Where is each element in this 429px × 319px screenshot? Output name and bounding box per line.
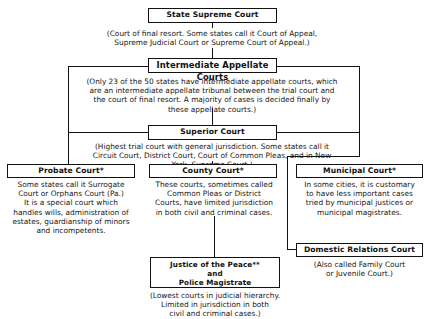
probate-court-title: Probate Court* [8,165,134,176]
state-supreme-court-desc: (Court of final resort. Some states call… [62,29,362,47]
state-supreme-court-title: State Supreme Court [149,9,276,21]
superior-court-title: Superior Court [149,126,276,138]
probate-court-desc: Some states call it Surrogate Court or O… [0,180,142,235]
justice-of-the-peace-box: Justice of the Peace** and Police Magist… [150,257,280,288]
county-court-box: County Court* [149,164,277,178]
domestic-relations-court-box: Domestic Relations Court [296,243,423,257]
domestic-relations-court-desc: (Also called Family Court or Juvenile Co… [290,260,429,278]
connector-line [68,66,148,67]
domestic-relations-court-title: Domestic Relations Court [297,244,422,255]
connector-line [214,216,215,257]
municipal-court-desc: In some cities, it is customary to have … [290,180,429,217]
connector-line [68,132,148,133]
probate-court-box: Probate Court* [7,164,135,178]
superior-court-box: Superior Court [148,125,277,140]
justice-of-the-peace-desc: (Lowest courts in judicial hierarchy. Li… [140,291,290,319]
municipal-court-box: Municipal Court* [296,164,423,178]
connector-line [276,132,360,133]
connector-line [276,66,360,67]
intermediate-appellate-courts-desc: (Only 23 of the 50 states have intermedi… [62,77,362,114]
state-supreme-court-box: State Supreme Court [148,8,277,23]
county-court-title: County Court* [150,165,276,176]
intermediate-appellate-courts-box: Intermediate Appellate Courts [148,58,277,73]
municipal-court-title: Municipal Court* [297,165,422,176]
connector-line [287,156,288,250]
county-court-desc: These courts, sometimes called Common Pl… [143,180,285,217]
